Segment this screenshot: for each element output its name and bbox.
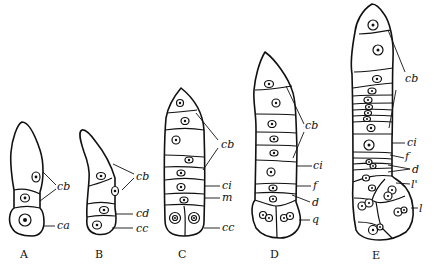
stage-c-nucleus: [172, 136, 180, 144]
label-ci: ci: [313, 159, 323, 172]
label-q: q: [312, 213, 319, 226]
label-f: f: [312, 179, 319, 192]
stage-b-nucleus: [112, 187, 119, 196]
stage-b-nucleus: [100, 207, 109, 214]
label-l: l: [419, 202, 423, 215]
stage-e-nucleus: [366, 105, 373, 110]
caption-a: A: [19, 248, 29, 261]
stage-e-nucleus: [364, 117, 371, 122]
stage-d: cb ci f d q D: [252, 52, 323, 261]
stage-e-nucleus: [364, 140, 374, 150]
label-d: d: [312, 196, 319, 209]
label-cb: cb: [405, 72, 418, 85]
stage-b-nucleus: [93, 221, 102, 229]
stage-d-nucleus: [267, 168, 275, 176]
stage-d-nucleus: [268, 121, 276, 128]
label-cb: cb: [305, 119, 318, 132]
label-d: d: [412, 163, 419, 176]
label-ca: ca: [57, 219, 70, 232]
label-cb: cb: [221, 138, 234, 151]
stage-c-nucleus: [177, 170, 185, 176]
caption-d: D: [270, 248, 279, 261]
stage-e-nucleus: [373, 76, 382, 83]
stage-e-nucleus: [368, 88, 376, 94]
stage-c-nucleus: [177, 184, 185, 191]
label-cb: cb: [136, 170, 149, 183]
label-cd: cd: [136, 207, 149, 220]
stage-e: cb ci f d l' l E: [351, 4, 423, 262]
stage-a-nucleus: [19, 214, 31, 226]
stage-e-nucleus: [364, 97, 372, 103]
stage-d-nucleus: [270, 196, 277, 202]
caption-e: E: [372, 249, 380, 262]
stage-e-nucleus: [363, 175, 370, 181]
stage-a-nucleus: [32, 172, 40, 182]
stage-e-nucleus: [373, 45, 383, 55]
label-l-prime: l': [411, 178, 418, 191]
stage-d-nucleus: [270, 150, 278, 156]
stage-c: cb ci m cc C: [164, 88, 234, 261]
stage-c-nucleus: [181, 118, 189, 125]
caption-b: B: [95, 248, 103, 261]
label-ci: ci: [407, 136, 417, 149]
stage-b-outline: [80, 130, 116, 235]
stage-a-nucleus: [21, 194, 30, 202]
stage-e-nucleus: [365, 111, 372, 116]
caption-c: C: [178, 248, 186, 261]
label-f: f: [404, 150, 411, 163]
stage-d-nucleus: [270, 136, 278, 142]
label-m: m: [222, 191, 232, 204]
stage-e-nucleus: [367, 125, 375, 132]
stage-d-nucleus: [272, 99, 280, 107]
diagram: cb ca A cb cd cc B: [0, 0, 434, 269]
stage-d-nucleus: [265, 81, 274, 88]
stage-c-nucleus: [185, 157, 193, 163]
stage-c-nucleus: [180, 197, 188, 203]
stage-d-nucleus: [269, 185, 277, 191]
stage-c-nucleus: [170, 213, 181, 224]
stage-e-nucleus: [368, 20, 378, 30]
stage-b: cb cd cc B: [80, 130, 149, 261]
stage-b-nucleus: [97, 173, 106, 180]
stage-c-nucleus: [177, 100, 184, 107]
stage-c-nucleus: [189, 213, 200, 224]
label-cb: cb: [57, 180, 70, 193]
stage-a: cb ca A: [10, 122, 71, 261]
label-cc: cc: [222, 221, 234, 234]
label-cc: cc: [136, 222, 148, 235]
stage-e-nucleus: [369, 185, 376, 191]
